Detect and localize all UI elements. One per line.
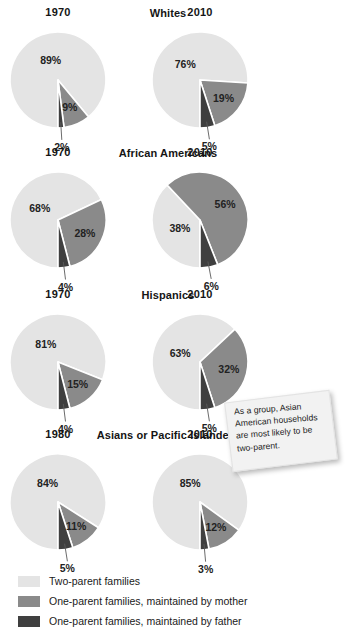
year-label-1970: 1970 <box>23 288 93 300</box>
legend-label-mother: One-parent families, maintained by mothe… <box>49 595 247 607</box>
svg-text:38%: 38% <box>169 222 191 234</box>
legend-item-two_parent: Two-parent families <box>18 573 338 589</box>
legend-swatch-father <box>18 616 40 627</box>
svg-text:15%: 15% <box>67 378 89 390</box>
pie-container-african-americans-1970: 68%28%4% <box>3 168 113 278</box>
callout-note-text: As a group, Asian American households ar… <box>234 398 330 454</box>
svg-text:11%: 11% <box>66 520 87 532</box>
pie-chart-african-americans-2010: 38%56%6% <box>145 168 255 300</box>
legend-item-father: One-parent families, maintained by fathe… <box>18 613 338 629</box>
svg-text:56%: 56% <box>215 198 237 210</box>
group-label: Whites <box>95 6 241 20</box>
svg-text:89%: 89% <box>40 54 62 66</box>
pie-chart-whites-2010: 76%19%5% <box>145 28 255 160</box>
pie-container-whites-1970: 89%9%2% <box>3 28 113 138</box>
legend-label-two_parent: Two-parent families <box>49 575 140 587</box>
svg-text:84%: 84% <box>37 477 59 489</box>
svg-text:19%: 19% <box>213 92 235 104</box>
year-label-1970: 1970 <box>23 146 93 158</box>
svg-text:85%: 85% <box>180 477 202 489</box>
year-label-1980: 1980 <box>23 428 93 440</box>
pie-chart-african-americans-1970: 68%28%4% <box>3 168 113 300</box>
svg-text:76%: 76% <box>175 58 197 70</box>
legend-swatch-two_parent <box>18 576 40 587</box>
legend-swatch-mother <box>18 596 40 607</box>
group-label: African Americans <box>95 146 241 160</box>
svg-text:81%: 81% <box>35 338 57 350</box>
svg-text:12%: 12% <box>205 521 227 533</box>
pie-chart-asians-or-pacific-islanders-1980: 84%11%5% <box>3 450 113 582</box>
svg-text:68%: 68% <box>29 202 51 214</box>
legend-label-father: One-parent families, maintained by fathe… <box>49 615 242 627</box>
legend-item-mother: One-parent families, maintained by mothe… <box>18 593 338 609</box>
pie-container-hispanics-1970: 81%15%4% <box>3 310 113 420</box>
svg-text:28%: 28% <box>74 227 96 239</box>
svg-text:32%: 32% <box>218 363 240 375</box>
pie-chart-hispanics-1970: 81%15%4% <box>3 310 113 442</box>
svg-text:63%: 63% <box>170 347 192 359</box>
pie-container-asians-or-pacific-islanders-1980: 84%11%5% <box>3 450 113 560</box>
legend: Two-parent familiesOne-parent families, … <box>18 573 338 631</box>
pie-chart-whites-1970: 89%9%2% <box>3 28 113 160</box>
pie-container-african-americans-2010: 38%56%6% <box>145 168 255 278</box>
svg-text:9%: 9% <box>62 101 78 113</box>
group-label: Hispanics <box>95 288 241 302</box>
year-label-1970: 1970 <box>23 6 93 18</box>
callout-note: As a group, Asian American households ar… <box>224 390 338 472</box>
pie-container-whites-2010: 76%19%5% <box>145 28 255 138</box>
group-label: Asians or Pacific Islanders <box>95 428 241 442</box>
